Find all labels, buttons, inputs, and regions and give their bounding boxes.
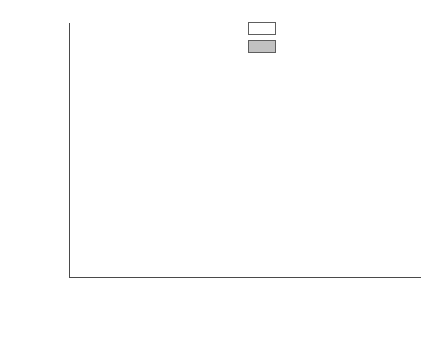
legend-item-infant-classes: [248, 19, 285, 37]
y-axis-line: [69, 23, 70, 278]
legend-item-nursery-schools-and-classes: [248, 37, 285, 55]
legend-swatch-infant-icon: [248, 22, 276, 35]
plot-area: [69, 23, 421, 277]
x-axis-line: [69, 277, 421, 278]
legend: [248, 19, 285, 55]
bar-chart: [0, 0, 433, 363]
legend-swatch-nursery-icon: [248, 40, 276, 53]
